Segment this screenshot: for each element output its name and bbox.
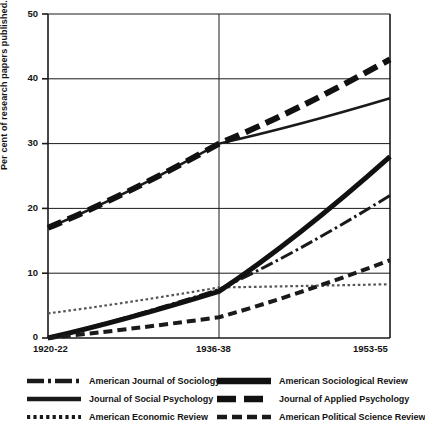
legend-column-right: American Sociological Review Journal of … (216, 372, 425, 426)
legend-swatch-dotted-icon (26, 410, 82, 424)
legend-item-american-sociological-review: American Sociological Review (216, 372, 425, 390)
y-tick-marks (42, 14, 48, 338)
legend-item-journal-of-applied-psychology: Journal of Applied Psychology (216, 390, 425, 408)
legend-item-american-political-science-review: American Political Science Review (216, 408, 425, 426)
legend-item-american-journal-of-sociology: American Journal of Sociology (26, 372, 220, 390)
legend-swatch-solid-thin-icon (26, 392, 82, 406)
legend-label-3: American Sociological Review (279, 376, 408, 386)
y-tick-label-50: 50 (8, 8, 38, 19)
legend-swatch-solid-thick-icon (216, 374, 272, 388)
legend-label-2: American Economic Review (89, 412, 208, 422)
y-tick-label-20: 20 (8, 202, 38, 213)
legend-item-journal-of-social-psychology: Journal of Social Psychology (26, 390, 220, 408)
y-tick-label-40: 40 (8, 72, 38, 83)
legend-item-american-economic-review: American Economic Review (26, 408, 220, 426)
x-tick-label-1936-38: 1936-38 (196, 343, 231, 354)
x-tick-label-1953-55: 1953-55 (353, 343, 388, 354)
legend-label-1: Journal of Social Psychology (89, 394, 213, 404)
line-chart-svg (0, 0, 404, 368)
legend-label-4: Journal of Applied Psychology (279, 394, 409, 404)
legend-label-0: American Journal of Sociology (89, 376, 220, 386)
x-tick-label-1920-22: 1920-22 (33, 343, 68, 354)
legend-swatch-dash-thick-icon (216, 392, 272, 406)
legend-swatch-dash-medium-icon (216, 410, 272, 424)
y-tick-label-0: 0 (8, 331, 38, 342)
legend-swatch-dash-dot-icon (26, 374, 82, 388)
y-tick-label-10: 10 (8, 267, 38, 278)
y-tick-label-30: 30 (8, 137, 38, 148)
plot-area: Per cent of research papers published. 5… (0, 0, 404, 368)
legend-column-left: American Journal of Sociology Journal of… (26, 372, 220, 426)
legend-label-5: American Political Science Review (279, 412, 425, 422)
chart-legend: American Journal of Sociology Journal of… (0, 368, 404, 429)
